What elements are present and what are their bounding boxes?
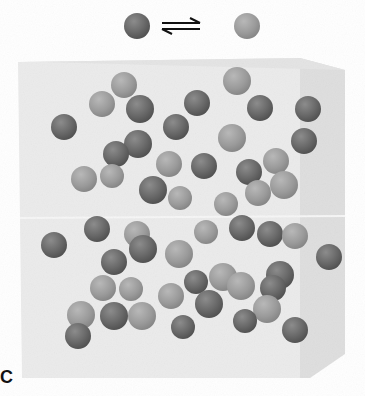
dark-sphere-icon — [41, 232, 67, 258]
light-sphere-icon — [214, 192, 238, 216]
dark-sphere-icon — [184, 90, 210, 116]
dark-sphere-icon — [84, 216, 110, 242]
reactant-dark-sphere-icon — [124, 13, 150, 39]
light-sphere-icon — [158, 283, 184, 309]
dark-sphere-icon — [229, 215, 255, 241]
light-sphere-icon — [227, 272, 255, 300]
dark-sphere-icon — [103, 141, 129, 167]
dark-sphere-icon — [291, 128, 317, 154]
light-sphere-icon — [282, 223, 308, 249]
dark-sphere-icon — [247, 95, 273, 121]
dark-sphere-icon — [51, 114, 77, 140]
dark-sphere-icon — [282, 317, 308, 343]
light-sphere-icon — [71, 166, 97, 192]
dark-sphere-icon — [171, 315, 195, 339]
dark-sphere-icon — [191, 153, 217, 179]
light-sphere-icon — [253, 295, 281, 323]
equilibrium-arrows-icon — [160, 14, 202, 38]
light-sphere-icon — [156, 151, 182, 177]
light-sphere-icon — [90, 275, 116, 301]
equilibrium-figure: C — [0, 0, 365, 396]
light-sphere-icon — [89, 91, 115, 117]
dark-sphere-icon — [195, 290, 223, 318]
dark-sphere-icon — [100, 302, 128, 330]
light-sphere-icon — [223, 67, 251, 95]
dark-sphere-icon — [139, 176, 167, 204]
light-sphere-icon — [194, 220, 218, 244]
dark-sphere-icon — [101, 249, 127, 275]
light-sphere-icon — [111, 72, 137, 98]
light-sphere-icon — [245, 180, 271, 206]
light-sphere-icon — [218, 124, 246, 152]
light-sphere-icon — [270, 171, 298, 199]
light-sphere-icon — [119, 277, 143, 301]
dark-sphere-icon — [163, 114, 189, 140]
dark-sphere-icon — [126, 95, 154, 123]
light-sphere-icon — [128, 302, 156, 330]
dark-sphere-icon — [316, 244, 342, 270]
dark-sphere-icon — [257, 221, 283, 247]
light-sphere-icon — [100, 164, 124, 188]
dark-sphere-icon — [65, 323, 91, 349]
panel-label: C — [0, 367, 13, 388]
light-sphere-icon — [168, 186, 192, 210]
dark-sphere-icon — [129, 235, 157, 263]
product-light-sphere-icon — [234, 13, 260, 39]
dark-sphere-icon — [233, 309, 257, 333]
light-sphere-icon — [165, 240, 193, 268]
dark-sphere-icon — [295, 96, 321, 122]
